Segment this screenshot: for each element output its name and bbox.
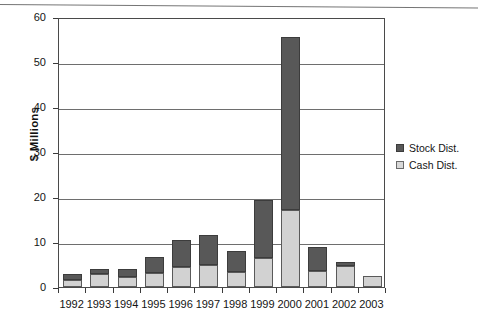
bar-group-1997 xyxy=(199,17,218,287)
bar-segment-stock-1999 xyxy=(254,200,273,258)
bar-segment-stock-1992 xyxy=(63,274,82,280)
legend-item-stock-dist[interactable]: Stock Dist. xyxy=(396,142,476,154)
bar-segment-stock-2002 xyxy=(336,262,355,266)
bar-group-1995 xyxy=(145,17,164,287)
x-axis-tick-mark xyxy=(194,288,195,293)
bar-group-2001 xyxy=(308,17,327,287)
bar-group-1998 xyxy=(227,17,246,287)
y-axis-tick-label: 50 xyxy=(20,56,46,68)
x-axis-tick-mark xyxy=(85,288,86,293)
x-axis-tick-mark xyxy=(249,288,250,293)
x-axis-tick-mark xyxy=(222,288,223,293)
bar-segment-cash-1992 xyxy=(63,280,82,287)
bar-segment-cash-1993 xyxy=(90,274,109,287)
bar-group-1999 xyxy=(254,17,273,287)
bar-group-2000 xyxy=(281,17,300,287)
legend-label: Cash Dist. xyxy=(409,159,457,171)
bar-segment-stock-2001 xyxy=(308,247,327,271)
x-axis-tick-mark xyxy=(276,288,277,293)
bar-segment-cash-2000 xyxy=(281,210,300,287)
bar-segment-cash-2003 xyxy=(363,276,382,287)
x-axis-tick-mark xyxy=(113,288,114,293)
y-axis-tick-label: 0 xyxy=(20,281,46,293)
stock-swatch-icon xyxy=(396,144,404,152)
bar-segment-stock-1997 xyxy=(199,235,218,264)
x-axis-tick-label-2003: 2003 xyxy=(354,298,388,310)
x-axis-tick-mark xyxy=(167,288,168,293)
y-axis-tick-label: 20 xyxy=(20,191,46,203)
legend-label: Stock Dist. xyxy=(409,142,459,154)
bar-segment-stock-1994 xyxy=(118,269,137,276)
bar-segment-stock-1996 xyxy=(172,240,191,267)
cash-swatch-icon xyxy=(396,161,404,169)
y-axis-tick-label: 40 xyxy=(20,101,46,113)
bar-segment-cash-1996 xyxy=(172,267,191,287)
bar-segment-cash-2002 xyxy=(336,266,355,287)
bar-group-1993 xyxy=(90,17,109,287)
bar-container xyxy=(59,19,384,287)
legend-item-cash-dist[interactable]: Cash Dist. xyxy=(396,159,476,171)
bar-segment-cash-2001 xyxy=(308,271,327,287)
x-axis-tick-mark xyxy=(303,288,304,293)
bar-group-2002 xyxy=(336,17,355,287)
x-axis-tick-mark xyxy=(140,288,141,293)
bar-segment-stock-1998 xyxy=(227,251,246,272)
bar-segment-cash-1997 xyxy=(199,265,218,288)
bar-segment-stock-2000 xyxy=(281,37,300,210)
bar-segment-cash-1999 xyxy=(254,258,273,287)
bar-group-1996 xyxy=(172,17,191,287)
bar-group-2003 xyxy=(363,17,382,287)
bar-segment-cash-1994 xyxy=(118,277,137,287)
y-axis-tick-label: 60 xyxy=(20,11,46,23)
x-axis-tick-mark xyxy=(58,288,59,293)
bar-segment-stock-1993 xyxy=(90,269,109,274)
chart-legend: Stock Dist.Cash Dist. xyxy=(396,142,476,176)
y-axis-tick-label: 10 xyxy=(20,236,46,248)
x-axis-tick-mark xyxy=(385,288,386,293)
plot-area xyxy=(58,18,385,288)
bar-segment-stock-1995 xyxy=(145,257,164,272)
x-axis-tick-mark xyxy=(358,288,359,293)
y-axis-tick-label: 30 xyxy=(20,146,46,158)
x-axis-tick-mark xyxy=(331,288,332,293)
bar-segment-cash-1998 xyxy=(227,272,246,287)
bar-segment-cash-1995 xyxy=(145,273,164,287)
stacked-bar-chart-figure: $ Millions 0102030405060 199219931994199… xyxy=(0,0,478,322)
bar-group-1994 xyxy=(118,17,137,287)
bar-group-1992 xyxy=(63,17,82,287)
